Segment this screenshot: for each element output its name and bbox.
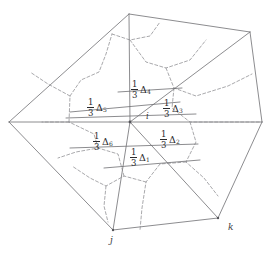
delta-symbol: Δ bbox=[96, 103, 103, 113]
delta-subscript: 3 bbox=[179, 108, 183, 114]
fraction-denominator: 3 bbox=[131, 90, 138, 99]
area-label-delta6: 1 3 Δ6 bbox=[93, 126, 113, 151]
fraction-denominator: 3 bbox=[93, 142, 100, 151]
delta-subscript: 4 bbox=[147, 89, 151, 95]
spoke-to-top bbox=[129, 14, 130, 122]
delta-symbol: Δ bbox=[140, 85, 147, 95]
vertex-label-i: i bbox=[146, 112, 149, 121]
area-label-delta1: 1 3 Δ1 bbox=[130, 142, 150, 167]
band-d1-lower bbox=[104, 160, 200, 168]
delta-symbol: Δ bbox=[172, 104, 179, 114]
vertex-k-dot bbox=[217, 217, 219, 219]
delta-subscript: 5 bbox=[103, 107, 107, 113]
fraction-numerator: 1 bbox=[130, 148, 137, 157]
fraction-one-third: 1 3 bbox=[160, 130, 167, 149]
delta-symbol: Δ bbox=[102, 137, 109, 147]
fraction-numerator: 1 bbox=[163, 99, 170, 108]
fraction-denominator: 3 bbox=[163, 109, 170, 118]
vertex-j-dot bbox=[112, 229, 114, 231]
fraction-one-third: 1 3 bbox=[130, 148, 137, 167]
fraction-denominator: 3 bbox=[87, 108, 94, 117]
delta-subscript: 6 bbox=[109, 141, 113, 147]
figure-container: 1 3 Δ4 1 3 Δ5 1 3 Δ3 bbox=[0, 0, 271, 256]
fraction-one-third: 1 3 bbox=[163, 99, 170, 118]
fraction-numerator: 1 bbox=[87, 98, 94, 107]
area-label-delta4: 1 3 Δ4 bbox=[131, 74, 151, 99]
vertex-label-j: j bbox=[110, 236, 113, 245]
delta-subscript: 2 bbox=[176, 139, 180, 145]
fraction-one-third: 1 3 bbox=[131, 80, 138, 99]
delta-symbol: Δ bbox=[139, 153, 146, 163]
mesh-diagram bbox=[0, 0, 271, 256]
fraction-one-third: 1 3 bbox=[93, 132, 100, 151]
vertex-i-dot bbox=[129, 121, 132, 124]
area-label-delta3: 1 3 Δ3 bbox=[163, 93, 183, 118]
delta-subscript: 1 bbox=[146, 157, 150, 163]
fraction-one-third: 1 3 bbox=[87, 98, 94, 117]
spoke-to-vertex-j bbox=[113, 122, 130, 230]
fraction-denominator: 3 bbox=[160, 140, 167, 149]
fraction-numerator: 1 bbox=[131, 80, 138, 89]
vertex-label-k: k bbox=[228, 223, 233, 232]
fraction-numerator: 1 bbox=[93, 132, 100, 141]
delta-symbol: Δ bbox=[169, 135, 176, 145]
fraction-numerator: 1 bbox=[160, 130, 167, 139]
area-label-delta2: 1 3 Δ2 bbox=[160, 124, 180, 149]
area-label-delta5: 1 3 Δ5 bbox=[87, 92, 107, 117]
fraction-denominator: 3 bbox=[130, 158, 137, 167]
